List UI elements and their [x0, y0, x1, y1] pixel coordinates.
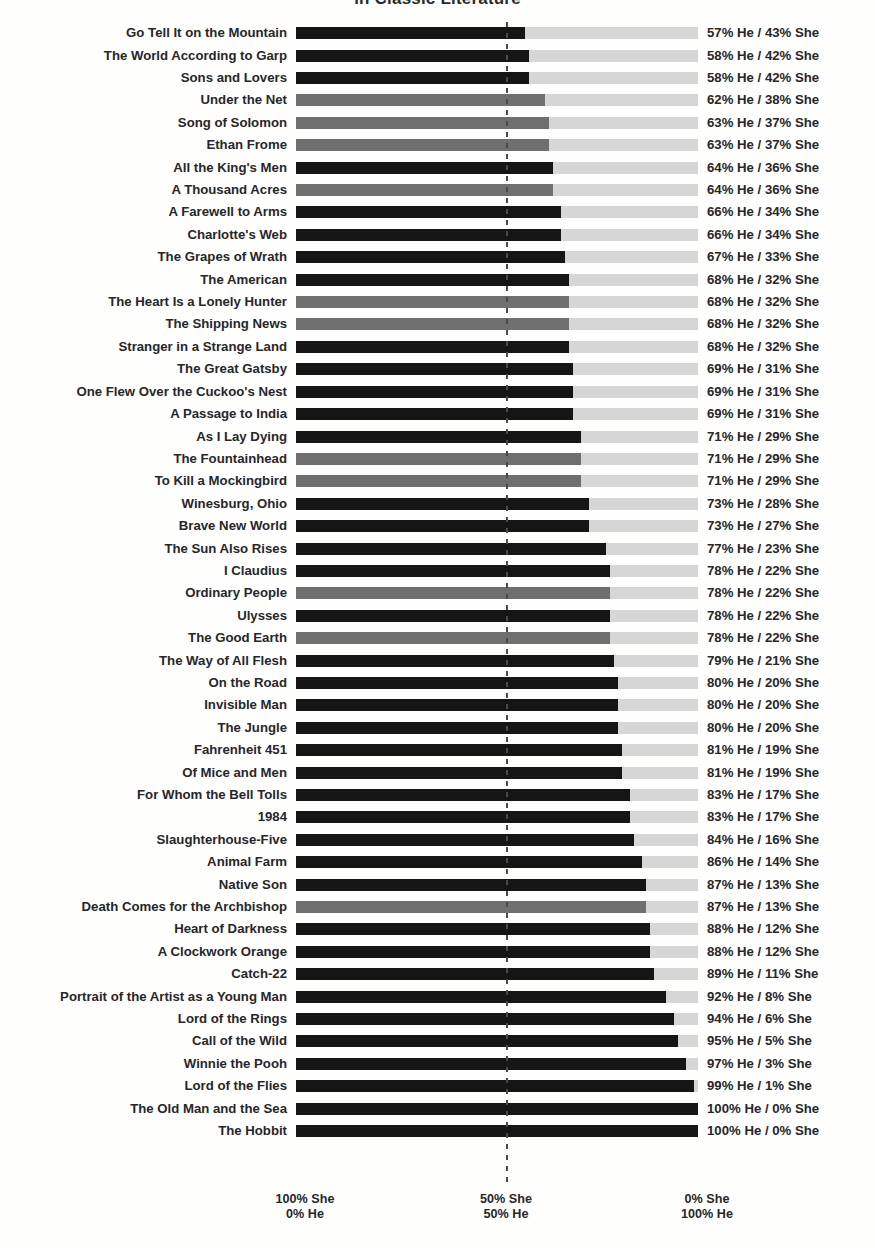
bar-track [296, 274, 698, 286]
chart-row: The Jungle80% He / 20% She [0, 717, 875, 739]
bar-fill-he [296, 139, 549, 151]
chart-row: The Great Gatsby69% He / 31% She [0, 358, 875, 380]
bar-track [296, 655, 698, 667]
axis-tick-label: 50% She50% He [480, 1192, 532, 1222]
row-label: Song of Solomon [0, 116, 296, 130]
row-label: The Grapes of Wrath [0, 250, 296, 264]
bar-track [296, 677, 698, 689]
bar-track [296, 1103, 698, 1115]
row-label: Stranger in a Strange Land [0, 340, 296, 354]
bar-track [296, 94, 698, 106]
row-value-label: 81% He / 19% She [698, 743, 819, 757]
row-value-label: 80% He / 20% She [698, 721, 819, 735]
chart-row: A Clockwork Orange88% He / 12% She [0, 941, 875, 963]
row-label: As I Lay Dying [0, 430, 296, 444]
chart-row: The Hobbit100% He / 0% She [0, 1120, 875, 1142]
bar-fill-he [296, 968, 654, 980]
bar-fill-he [296, 50, 529, 62]
row-value-label: 84% He / 16% She [698, 833, 819, 847]
bar-fill-he [296, 722, 618, 734]
row-value-label: 80% He / 20% She [698, 676, 819, 690]
bar-track [296, 431, 698, 443]
row-label: Winesburg, Ohio [0, 497, 296, 511]
row-value-label: 68% He / 32% She [698, 317, 819, 331]
row-value-label: 68% He / 32% She [698, 340, 819, 354]
axis-tick-line2: 0% He [276, 1207, 335, 1222]
chart-row: To Kill a Mockingbird71% He / 29% She [0, 470, 875, 492]
bar-track [296, 991, 698, 1003]
row-label: For Whom the Bell Tolls [0, 788, 296, 802]
bar-fill-he [296, 677, 618, 689]
row-label: Catch-22 [0, 967, 296, 981]
row-value-label: 73% He / 27% She [698, 519, 819, 533]
bar-fill-he [296, 811, 630, 823]
bar-fill-he [296, 453, 581, 465]
row-label: The Old Man and the Sea [0, 1102, 296, 1116]
bar-fill-he [296, 1103, 698, 1115]
chart-row: A Passage to India69% He / 31% She [0, 403, 875, 425]
chart-row: The Heart Is a Lonely Hunter68% He / 32%… [0, 291, 875, 313]
row-value-label: 71% He / 29% She [698, 430, 819, 444]
row-label: Lord of the Rings [0, 1012, 296, 1026]
row-value-label: 66% He / 34% She [698, 205, 819, 219]
bar-track [296, 699, 698, 711]
row-value-label: 83% He / 17% She [698, 788, 819, 802]
chart-row: Heart of Darkness88% He / 12% She [0, 918, 875, 940]
chart-row: Brave New World73% He / 27% She [0, 515, 875, 537]
chart-row: The Shipping News68% He / 32% She [0, 313, 875, 335]
row-value-label: 71% He / 29% She [698, 474, 819, 488]
bar-track [296, 229, 698, 241]
bar-fill-he [296, 543, 606, 555]
row-label: A Passage to India [0, 407, 296, 421]
chart-row: The World According to Garp58% He / 42% … [0, 44, 875, 66]
bar-fill-he [296, 498, 589, 510]
axis-tick-line2: 50% He [480, 1207, 532, 1222]
chart-row: Go Tell It on the Mountain57% He / 43% S… [0, 22, 875, 44]
chart-row: The American68% He / 32% She [0, 268, 875, 290]
row-label: Winnie the Pooh [0, 1057, 296, 1071]
chart-row: Winesburg, Ohio73% He / 28% She [0, 493, 875, 515]
bar-track [296, 296, 698, 308]
bar-fill-he [296, 744, 622, 756]
row-value-label: 86% He / 14% She [698, 855, 819, 869]
row-label: Sons and Lovers [0, 71, 296, 85]
row-label: The Fountainhead [0, 452, 296, 466]
bar-track [296, 1013, 698, 1025]
chart-row: The Way of All Flesh79% He / 21% She [0, 649, 875, 671]
chart-row: Song of Solomon63% He / 37% She [0, 112, 875, 134]
row-value-label: 67% He / 33% She [698, 250, 819, 264]
bar-track [296, 856, 698, 868]
chart-row: As I Lay Dying71% He / 29% She [0, 425, 875, 447]
chart-row: Animal Farm86% He / 14% She [0, 851, 875, 873]
bar-track [296, 251, 698, 263]
bar-fill-he [296, 386, 573, 398]
row-label: A Thousand Acres [0, 183, 296, 197]
bar-track [296, 117, 698, 129]
bar-fill-he [296, 946, 650, 958]
chart-row: Native Son87% He / 13% She [0, 873, 875, 895]
bar-track [296, 72, 698, 84]
row-value-label: 88% He / 12% She [698, 922, 819, 936]
bar-track [296, 475, 698, 487]
row-label: The Way of All Flesh [0, 654, 296, 668]
chart-row: Ordinary People78% He / 22% She [0, 582, 875, 604]
row-label: One Flew Over the Cuckoo's Nest [0, 385, 296, 399]
row-label: I Claudius [0, 564, 296, 578]
bar-track [296, 543, 698, 555]
bar-track [296, 879, 698, 891]
axis-tick-line1: 0% She [685, 1192, 730, 1206]
row-label: The World According to Garp [0, 49, 296, 63]
row-label: On the Road [0, 676, 296, 690]
bar-fill-he [296, 1035, 678, 1047]
bar-fill-he [296, 1080, 694, 1092]
row-value-label: 77% He / 23% She [698, 542, 819, 556]
chart-row: A Thousand Acres64% He / 36% She [0, 179, 875, 201]
axis-tick-label: 100% She0% He [276, 1192, 335, 1222]
row-label: Death Comes for the Archbishop [0, 900, 296, 914]
bar-track [296, 318, 698, 330]
bar-fill-he [296, 879, 646, 891]
row-label: The Good Earth [0, 631, 296, 645]
bar-track [296, 632, 698, 644]
row-label: Ordinary People [0, 586, 296, 600]
row-label: Under the Net [0, 93, 296, 107]
